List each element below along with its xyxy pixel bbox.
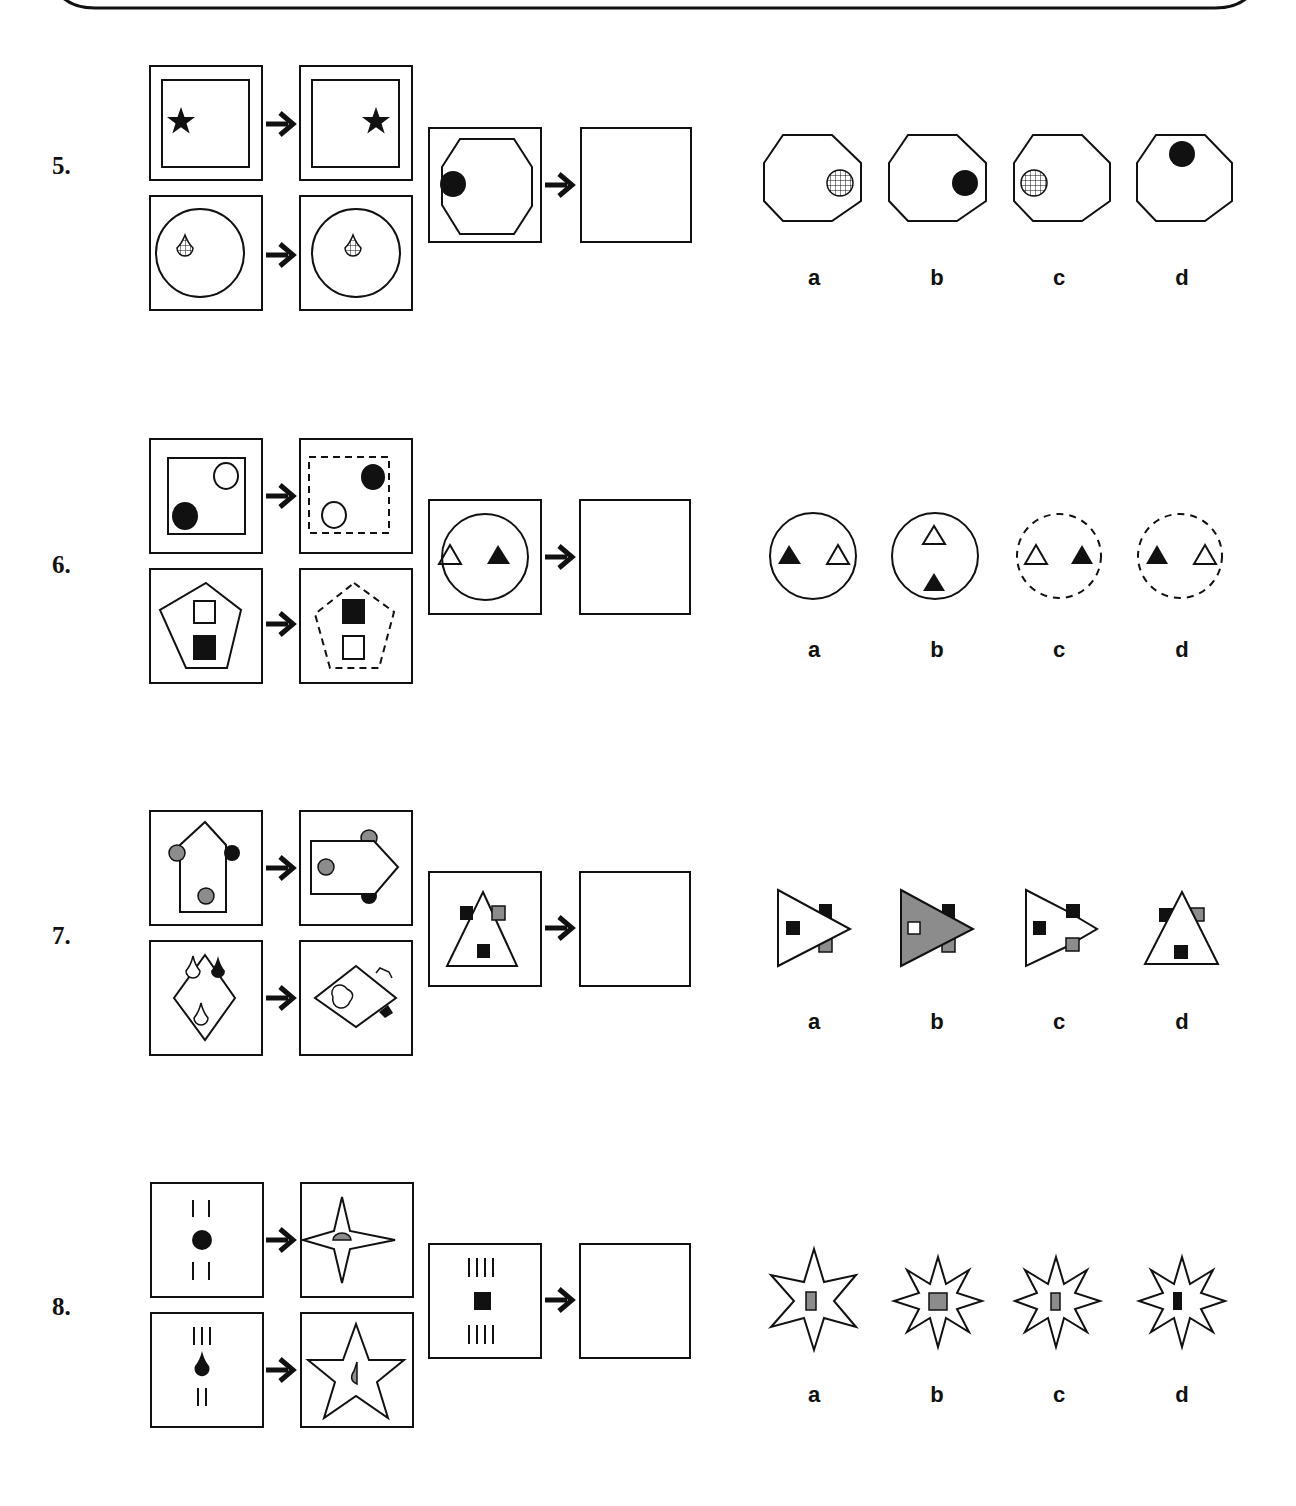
star-icon (362, 107, 390, 134)
q5-answer-box[interactable] (581, 128, 691, 242)
q7-answer-box[interactable] (580, 872, 690, 986)
q7-example-2-from (150, 941, 262, 1055)
q8-example-2-to (301, 1313, 413, 1427)
q7-question-figure (429, 872, 541, 986)
q8-example-1-to (301, 1183, 413, 1297)
q6-option-d[interactable] (1138, 514, 1222, 598)
q5-question-figure (429, 128, 541, 242)
q5-example-2-to (300, 196, 412, 310)
q7-example-1-to (300, 811, 412, 925)
q7-option-d[interactable] (1145, 892, 1218, 964)
star-icon (167, 107, 195, 134)
q8-example-2-from (151, 1313, 263, 1427)
q7-option-b[interactable] (901, 890, 973, 966)
q8-option-d[interactable] (1139, 1257, 1225, 1347)
figures-canvas (0, 0, 1296, 1506)
q8-answer-box[interactable] (580, 1244, 690, 1358)
q6-answer-box[interactable] (580, 500, 690, 614)
q5-example-1-to (300, 66, 412, 180)
q6-option-c[interactable] (1017, 514, 1101, 598)
q6-example-1-from (150, 439, 262, 553)
q7-example-1-from (150, 811, 262, 925)
q8-question-figure (429, 1244, 541, 1358)
q5-option-b[interactable] (889, 135, 986, 221)
q6-example-2-to (300, 569, 412, 683)
q7-example-2-to (300, 941, 412, 1055)
q5-option-c[interactable] (1014, 135, 1110, 221)
q6-example-2-from (150, 569, 262, 683)
q6-example-1-to (300, 439, 412, 553)
q8-option-c[interactable] (1015, 1257, 1100, 1347)
drop-icon (345, 235, 361, 256)
q5-example-2-from (150, 196, 262, 310)
q7-option-c[interactable] (1026, 890, 1097, 966)
q5-example-1-from (150, 66, 262, 180)
q8-example-1-from (151, 1183, 263, 1297)
q8-option-b[interactable] (894, 1257, 982, 1347)
q8-option-a[interactable] (771, 1249, 856, 1350)
q6-question-figure (429, 500, 541, 614)
q5-option-d[interactable] (1137, 135, 1232, 221)
q7-option-a[interactable] (778, 890, 850, 966)
q6-option-b[interactable] (892, 513, 978, 599)
q6-option-a[interactable] (770, 513, 856, 599)
q5-option-a[interactable] (764, 135, 861, 221)
drop-icon (177, 235, 193, 256)
